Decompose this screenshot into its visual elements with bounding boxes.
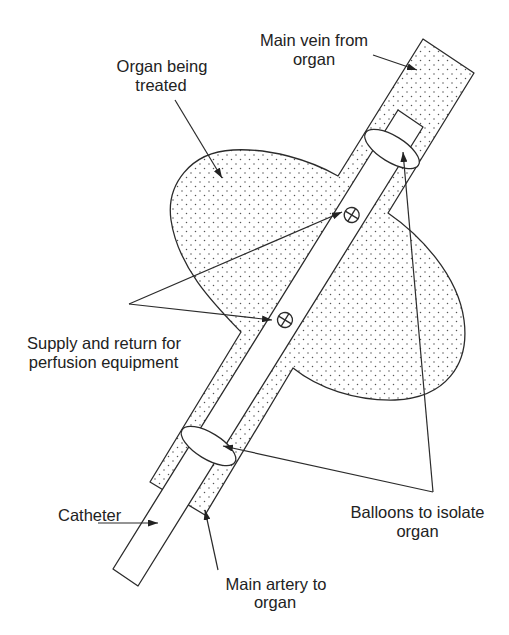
label-main-artery-line1: Main artery to (226, 575, 327, 593)
label-organ: Organ being treated (117, 57, 208, 94)
perfusion-diagram: Main vein from organ Organ being treated… (0, 0, 509, 635)
label-main-artery-line2: organ (254, 593, 296, 611)
label-catheter: Catheter (58, 506, 122, 524)
label-main-vein-line2: organ (293, 50, 335, 68)
label-organ-line1: Organ being (117, 57, 208, 75)
main-artery-arrow-icon (205, 510, 218, 570)
label-catheter-line1: Catheter (58, 506, 122, 524)
label-supply-return-line1: Supply and return for (27, 334, 182, 352)
label-balloons: Balloons to isolate organ (351, 503, 485, 540)
label-supply-return: Supply and return for perfusion equipmen… (27, 334, 182, 371)
balloon-lower-arrow-icon (223, 446, 433, 492)
label-main-vein-line1: Main vein from (260, 31, 368, 49)
label-organ-line2: treated (135, 76, 186, 94)
label-balloons-line2: organ (396, 522, 438, 540)
label-main-vein: Main vein from organ (260, 31, 368, 68)
label-balloons-line1: Balloons to isolate (351, 503, 485, 521)
label-supply-return-line2: perfusion equipment (29, 353, 179, 371)
label-main-artery: Main artery to organ (226, 575, 327, 611)
